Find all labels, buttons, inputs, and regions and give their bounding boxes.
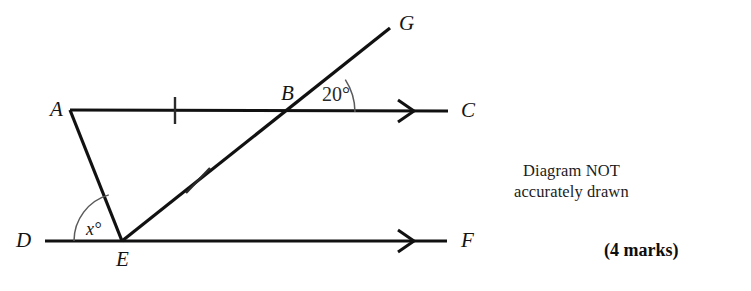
diagram-not-accurate-note-line1: Diagram NOT — [523, 160, 620, 181]
label-point-f: F — [460, 228, 474, 252]
label-point-g: G — [399, 11, 414, 35]
label-point-e: E — [115, 247, 129, 271]
label-point-c: C — [461, 98, 476, 122]
angle-label-20-degrees: 20° — [322, 83, 350, 105]
line-e-g — [122, 28, 390, 241]
line-a-c — [70, 110, 448, 111]
marks-allocation: (4 marks) — [604, 240, 679, 261]
question-figure-panel: A B C D E F G 20° x° Diagram NOT accurat… — [0, 0, 751, 291]
tick-mark-segment-eb — [186, 168, 210, 193]
angle-label-x-degrees: x° — [85, 219, 101, 239]
label-point-a: A — [48, 97, 63, 121]
label-point-b: B — [281, 81, 294, 105]
geometry-diagram: A B C D E F G 20° x° — [0, 0, 500, 291]
label-point-d: D — [15, 228, 31, 252]
diagram-not-accurate-note-line2: accurately drawn — [514, 181, 629, 202]
